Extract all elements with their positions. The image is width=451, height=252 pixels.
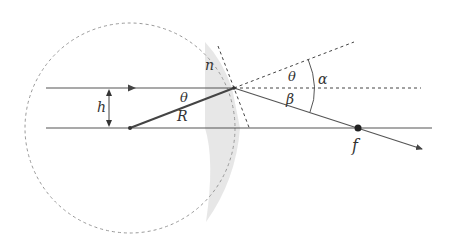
incident-ray-arrow: [128, 85, 136, 92]
refracted-ray: [234, 88, 422, 149]
height-arrow-up: [106, 89, 112, 96]
label-alpha: α: [318, 71, 328, 87]
focal-point: [355, 125, 362, 132]
label-n: n: [205, 57, 214, 73]
label-h: h: [97, 99, 106, 115]
label-R: R: [176, 108, 188, 124]
center-point: [128, 126, 132, 130]
label-f: f: [351, 136, 361, 155]
optics-diagram: n h θ R θ α β f: [0, 0, 451, 252]
alpha-arc: [308, 59, 315, 112]
label-beta: β: [285, 91, 294, 107]
label-theta-inner: θ: [180, 90, 188, 105]
height-arrow-down: [106, 120, 112, 127]
refraction-point: [232, 86, 236, 90]
label-theta-outer: θ: [288, 69, 296, 84]
